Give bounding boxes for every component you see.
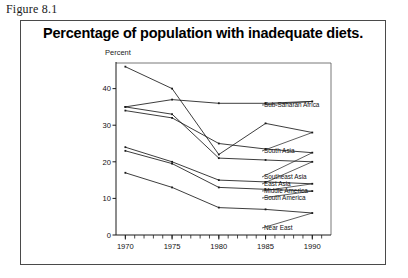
data-point-marker: [124, 110, 126, 112]
data-point-marker: [218, 154, 220, 156]
chart-axes: [116, 62, 331, 235]
data-point-marker: [265, 148, 267, 150]
data-point-marker: [218, 179, 220, 181]
data-point-marker: [218, 157, 220, 159]
figure-caption: Figure 8.1: [6, 2, 57, 17]
chart-panel: Percentage of population with inadequate…: [20, 20, 386, 265]
series-label: Near East: [264, 224, 293, 231]
data-point-marker: [218, 207, 220, 209]
data-point-marker: [218, 143, 220, 145]
data-point-marker: [124, 66, 126, 68]
series-label: Sub-Saharan Africa: [264, 101, 320, 108]
y-axis-tick-label: 0: [107, 231, 111, 240]
series-label: East Asia: [264, 180, 291, 187]
data-point-marker: [265, 122, 267, 124]
line-chart-svg: 01020304019701975198019851990Sub-Saharan…: [21, 21, 387, 266]
data-point-marker: [218, 102, 220, 104]
x-axis-tick-label: 1970: [117, 242, 134, 251]
y-axis-tick-label: 40: [103, 84, 111, 93]
x-axis-tick-label: 1975: [164, 242, 181, 251]
data-point-marker: [171, 99, 173, 101]
x-axis-tick-label: 1980: [210, 242, 227, 251]
x-axis-tick-label: 1985: [257, 242, 274, 251]
data-point-marker: [265, 181, 267, 183]
data-point-marker: [265, 208, 267, 210]
data-line: [125, 67, 312, 155]
y-axis-tick-label: 10: [103, 194, 111, 203]
series-label: South America: [264, 194, 306, 201]
data-point-marker: [265, 188, 267, 190]
plot-frame: [116, 63, 331, 235]
y-axis-tick-label: 30: [103, 121, 111, 130]
data-point-marker: [124, 106, 126, 108]
data-point-marker: [218, 187, 220, 189]
data-point-marker: [171, 187, 173, 189]
data-point-marker: [171, 161, 173, 163]
data-point-marker: [124, 172, 126, 174]
data-point-marker: [171, 88, 173, 90]
x-axis-tick-label: 1990: [304, 242, 321, 251]
data-point-marker: [124, 150, 126, 152]
series-label: Southeast Asia: [264, 173, 307, 180]
data-point-marker: [124, 146, 126, 148]
data-point-marker: [265, 159, 267, 161]
y-axis-tick-label: 20: [103, 158, 111, 167]
data-point-marker: [171, 117, 173, 119]
data-point-marker: [171, 163, 173, 165]
figure-container: Figure 8.1 Percentage of population with…: [0, 0, 408, 278]
data-point-marker: [171, 113, 173, 115]
